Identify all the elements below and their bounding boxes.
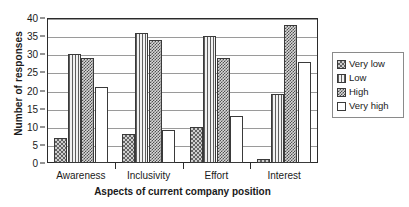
x-tick-label: Inclusivity [127, 170, 170, 181]
bar [230, 116, 243, 163]
legend-item: Low [337, 71, 400, 85]
bar [68, 54, 81, 163]
bar [149, 40, 162, 163]
bar-group [250, 18, 318, 163]
chart-legend: Very lowLowHighVery high [332, 52, 404, 118]
y-tick-label: 20 [27, 85, 38, 96]
bar-group [47, 18, 115, 163]
legend-swatch-icon [337, 102, 346, 111]
bar [203, 36, 216, 163]
bar [95, 87, 108, 163]
x-tick-mark [115, 163, 116, 169]
y-tick-label: 35 [27, 31, 38, 42]
y-tick-label: 15 [27, 103, 38, 114]
y-tick-label: 10 [27, 121, 38, 132]
y-tick-mark [40, 108, 45, 109]
x-tick-mark [183, 163, 184, 169]
legend-item: Very high [337, 99, 400, 113]
bar [190, 127, 203, 163]
y-tick-label: 30 [27, 49, 38, 60]
bar [135, 33, 148, 164]
y-tick-mark [40, 72, 45, 73]
y-tick-label: 0 [32, 158, 38, 169]
y-axis-ticks: 0510152025303540 [0, 18, 45, 163]
legend-item: Very low [337, 57, 400, 71]
bar [162, 130, 175, 163]
legend-swatch-icon [337, 74, 346, 83]
x-axis-title: Aspects of current company position [47, 186, 318, 197]
y-tick-mark [40, 126, 45, 127]
legend-item: High [337, 85, 400, 99]
x-tick-mark [250, 163, 251, 169]
y-tick-label: 40 [27, 13, 38, 24]
legend-label: Very high [349, 101, 389, 111]
bar [298, 62, 311, 164]
chart-figure: Number of responses 0510152025303540 Awa… [0, 0, 409, 207]
bar [122, 134, 135, 163]
legend-swatch-icon [337, 60, 346, 69]
legend-label: Low [349, 73, 366, 83]
y-tick-mark [40, 54, 45, 55]
legend-label: High [349, 87, 369, 97]
x-tick-label: Effort [205, 170, 229, 181]
bar-group [115, 18, 183, 163]
y-tick-mark [40, 18, 45, 19]
x-tick-label: Interest [267, 170, 300, 181]
legend-label: Very low [349, 59, 385, 69]
y-tick-mark [40, 144, 45, 145]
bar [217, 58, 230, 163]
bar [54, 138, 67, 163]
x-axis-category-labels: AwarenessInclusivityEffortInterest [47, 170, 318, 184]
y-tick-mark [40, 90, 45, 91]
bar-group [183, 18, 251, 163]
y-tick-mark [40, 36, 45, 37]
bar [271, 94, 284, 163]
y-tick-label: 5 [32, 139, 38, 150]
x-tick-label: Awareness [56, 170, 105, 181]
legend-swatch-icon [337, 88, 346, 97]
y-tick-label: 25 [27, 67, 38, 78]
y-tick-mark [40, 163, 45, 164]
bar [284, 25, 297, 163]
bar [81, 58, 94, 163]
bar-groups [47, 18, 318, 163]
